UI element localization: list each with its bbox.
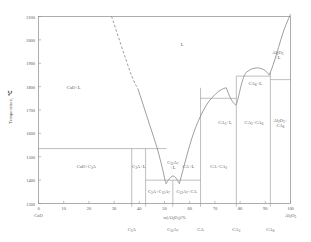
y-tick-label: 2100 bbox=[6, 14, 35, 19]
y-axis-title: Temperature, ℃ bbox=[7, 90, 13, 124]
y-tick-label: 1300 bbox=[6, 201, 35, 206]
phase-region-label: Al2O3+CA6 bbox=[273, 119, 287, 129]
y-tick-label: 1600 bbox=[6, 131, 35, 136]
compound-axis-label: C3A bbox=[128, 228, 136, 233]
phase-region-label: CA+L bbox=[183, 165, 195, 170]
phase-region-label: CA6+L bbox=[248, 82, 261, 87]
x-tick-label: 100 bbox=[287, 206, 294, 211]
phase-diagram-figure: 1300140015001600170018001900200021000102… bbox=[0, 0, 311, 242]
phase-region-label: L bbox=[181, 43, 184, 48]
phase-boundary-lines bbox=[39, 72, 291, 207]
phase-region-label: CA2+L bbox=[218, 121, 231, 126]
x-tick-label: 70 bbox=[213, 206, 217, 211]
phase-region-label: C3A+C12A7 bbox=[148, 190, 170, 195]
y-tick-label: 2000 bbox=[6, 37, 35, 42]
axis-ticks bbox=[39, 17, 291, 204]
y-tick-label: 1900 bbox=[6, 61, 35, 66]
plot-frame bbox=[39, 17, 291, 204]
x-tick-label: 50 bbox=[162, 206, 166, 211]
liquidus-curves bbox=[112, 14, 291, 183]
compound-axis-label: C12A7 bbox=[167, 228, 178, 233]
x-axis-left-endpoint-label: CaO bbox=[34, 213, 42, 218]
y-tick-label: 1800 bbox=[6, 84, 35, 89]
x-tick-label: 40 bbox=[137, 206, 141, 211]
phase-region-label: C3A+L bbox=[132, 165, 145, 170]
phase-region-label: C12A7+CA bbox=[177, 190, 197, 195]
compound-axis-label: CA6 bbox=[266, 228, 274, 233]
x-axis-right-endpoint-label: Al2O3 bbox=[285, 213, 296, 219]
phase-region-label: C12A7+L bbox=[167, 161, 178, 171]
phase-region-label: CaO+C3A bbox=[77, 165, 96, 170]
x-tick-label: 30 bbox=[112, 206, 116, 211]
phase-region-label: CA+CA2 bbox=[210, 165, 227, 170]
liquidus-curve bbox=[112, 17, 138, 89]
x-tick-label: 0 bbox=[37, 206, 39, 211]
y-tick-label: 1500 bbox=[6, 154, 35, 159]
x-tick-label: 10 bbox=[61, 206, 65, 211]
compound-axis-label: CA2 bbox=[232, 228, 240, 233]
compound-axis-label: CA bbox=[197, 228, 203, 233]
x-tick-label: 60 bbox=[187, 206, 191, 211]
y-tick-label: 1400 bbox=[6, 178, 35, 183]
phase-region-label: CaO+L bbox=[67, 86, 81, 91]
phase-region-label: CA2+CA6 bbox=[245, 121, 264, 126]
phase-region-label: Al2O3+L bbox=[272, 51, 283, 61]
liquidus-curve bbox=[246, 68, 269, 75]
liquidus-curve bbox=[269, 14, 290, 75]
x-axis-title: w(Al2O3)/% bbox=[163, 215, 186, 221]
x-tick-label: 90 bbox=[263, 206, 267, 211]
x-tick-label: 80 bbox=[238, 206, 242, 211]
plot-border bbox=[39, 17, 291, 204]
x-tick-label: 20 bbox=[87, 206, 91, 211]
